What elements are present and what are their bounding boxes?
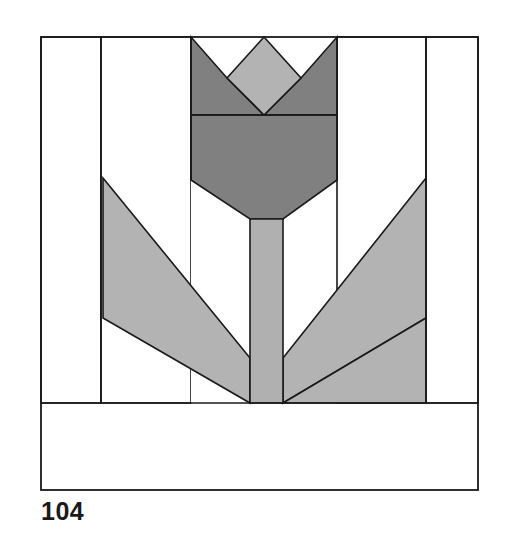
block-number-label: 104 <box>41 499 84 524</box>
quilt-block-diagram <box>0 0 509 537</box>
background-left-outer-strip <box>41 37 101 403</box>
background-right-outer-strip <box>426 37 478 403</box>
page-root: 104 <box>0 0 509 537</box>
flower-stem <box>250 219 283 403</box>
flower-head-group <box>191 37 337 219</box>
